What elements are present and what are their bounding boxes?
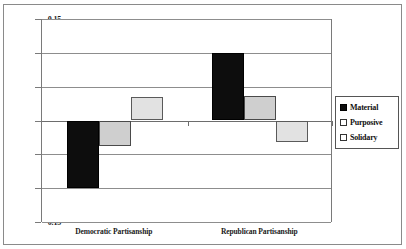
chart-legend: MaterialPurposiveSolidary [335, 96, 399, 149]
legend-item-solidary[interactable]: Solidary [340, 130, 395, 145]
bar-material-republican [212, 53, 244, 121]
bar-purposive-republican [244, 96, 276, 120]
plot-area [41, 19, 332, 222]
legend-label: Solidary [350, 133, 377, 142]
legend-swatch-icon-solidary [340, 134, 347, 141]
legend-label: Material [350, 103, 378, 112]
gridline [42, 53, 331, 54]
gridline [42, 222, 331, 223]
legend-swatch-icon-material [340, 104, 347, 111]
legend-item-purposive[interactable]: Purposive [340, 115, 395, 130]
gridline [42, 188, 331, 189]
category-boundary-tick [188, 121, 189, 126]
y-axis-tick-mark [35, 222, 41, 223]
bar-purposive-democratic [99, 121, 131, 146]
bar-material-democratic [67, 121, 99, 189]
chart-figure: 0.150.10.050-0.05-0.1-0.15 Democratic Pa… [0, 0, 406, 249]
category-label-republican: Republican Partisanship [187, 227, 333, 236]
axis-end-tick [332, 121, 333, 126]
gridline [42, 19, 331, 20]
legend-swatch-icon-purposive [340, 119, 347, 126]
legend-item-material[interactable]: Material [340, 100, 395, 115]
gridline [42, 87, 331, 88]
bar-solidary-democratic [131, 97, 163, 121]
legend-label: Purposive [350, 118, 382, 127]
category-label-democratic: Democratic Partisanship [41, 227, 187, 236]
bar-solidary-republican [276, 121, 308, 143]
